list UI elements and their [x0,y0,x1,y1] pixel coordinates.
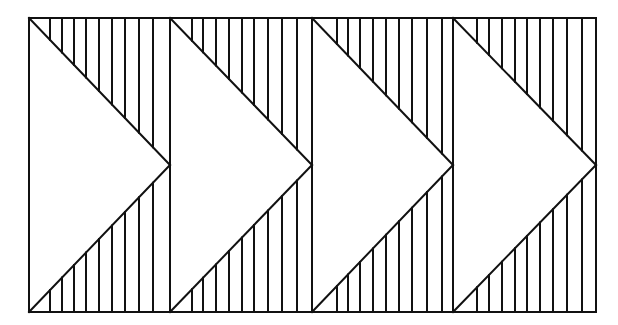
chevron-upper-edge [312,18,453,165]
chevron-cells [29,18,596,312]
chevron-cell-3 [312,18,453,312]
chevron-pattern-diagram [0,0,618,325]
chevron-lower-edge [453,165,596,312]
diagram-figure [0,0,618,325]
chevron-cell-4 [453,18,596,312]
chevron-upper-edge [453,18,596,165]
chevron-lower-edge [312,165,453,312]
hatch-lines [50,18,582,312]
